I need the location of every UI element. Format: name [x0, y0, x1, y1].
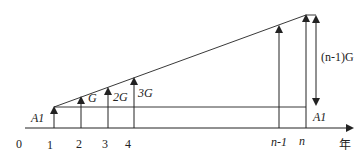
- tick-label-2: 2: [76, 137, 82, 151]
- tick-label-n: n: [299, 134, 305, 148]
- gradient-label-3g: 3G: [137, 86, 153, 100]
- unit-label: 年: [339, 138, 351, 152]
- tick-label-3: 3: [102, 137, 108, 151]
- gradient-total-label: (n-1)G: [321, 50, 354, 64]
- origin-label: 0: [16, 137, 22, 151]
- cash-flow-diagram: 0 1 2 3 4 n-1 n 年 A1 A1 G 2G 3G (n-1)G: [0, 0, 364, 162]
- base-amount-label-left: A1: [30, 111, 44, 125]
- tick-label-4: 4: [125, 137, 131, 151]
- base-amount-label-right: A1: [312, 110, 326, 124]
- gradient-label-g: G: [88, 91, 97, 105]
- gradient-label-2g: 2G: [113, 90, 128, 104]
- tick-label-1: 1: [47, 138, 53, 152]
- tick-label-n-1: n-1: [271, 135, 287, 149]
